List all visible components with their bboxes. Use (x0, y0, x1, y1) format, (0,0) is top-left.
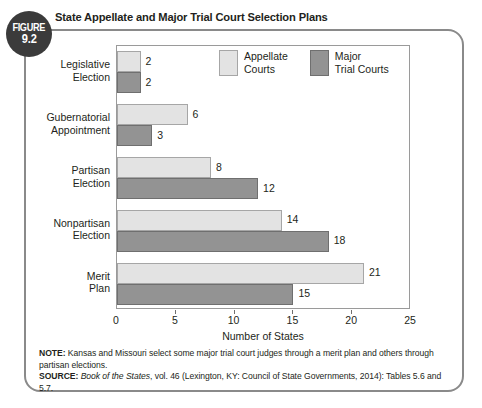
note-line: NOTE: Kansas and Missouri select some ma… (39, 348, 449, 371)
note-text: Kansas and Missouri select some major tr… (39, 348, 434, 370)
figure-title: State Appellate and Major Trial Court Se… (55, 11, 328, 23)
category-label-nonpartisan-election: NonpartisanElection (0, 217, 110, 242)
category-label-gubernatorial-appointment: GubernatorialAppointment (0, 111, 110, 136)
bar-value-label: 21 (369, 267, 381, 278)
x-tick-label: 5 (172, 314, 178, 326)
note-label: NOTE: (39, 348, 65, 358)
x-tick-label: 25 (404, 314, 416, 326)
legend-item-appellate-courts: Appellate Courts (219, 50, 288, 76)
bar-value-label: 6 (193, 109, 199, 120)
dark-swatch (310, 50, 329, 76)
category-label-merit-plan: MeritPlan (0, 270, 110, 295)
source-line: SOURCE: Book of the States, vol. 46 (Lex… (39, 371, 449, 394)
bar-value-label: 2 (146, 56, 152, 67)
legend-item-major-trial-courts: Major Trial Courts (310, 50, 389, 76)
category-label-legislative-election: LegislativeElection (0, 58, 110, 83)
source-label: SOURCE: (39, 371, 78, 381)
bar-value-label: 8 (216, 162, 222, 173)
bar-value-label: 3 (157, 130, 163, 141)
bar-major-trial-courts-merit-plan (117, 284, 293, 305)
figure-badge: FIGURE 9.2 (6, 11, 52, 57)
source-title: Book of the States (81, 371, 150, 381)
bar-value-label: 2 (146, 77, 152, 88)
x-tick-label: 10 (228, 314, 240, 326)
legend-label: Appellate Courts (244, 50, 288, 75)
bar-major-trial-courts-legislative-election (117, 72, 141, 93)
bar-appellate-courts-partisan-election (117, 157, 211, 178)
bar-appellate-courts-merit-plan (117, 263, 364, 284)
legend-label: Major Trial Courts (335, 50, 389, 75)
bar-appellate-courts-legislative-election (117, 51, 141, 72)
bar-value-label: 18 (334, 235, 346, 246)
bar-value-label: 15 (298, 288, 310, 299)
light-swatch (219, 50, 238, 76)
x-tick-label: 0 (113, 314, 119, 326)
plot-inner (117, 46, 409, 308)
bar-major-trial-courts-gubernatorial-appointment (117, 125, 152, 146)
bar-major-trial-courts-partisan-election (117, 178, 258, 199)
chart-legend: Appellate CourtsMajor Trial Courts (219, 50, 389, 76)
x-tick-label: 20 (345, 314, 357, 326)
figure-footnotes: NOTE: Kansas and Missouri select some ma… (39, 348, 449, 394)
bar-value-label: 12 (263, 183, 275, 194)
x-axis-title: Number of States (116, 330, 410, 342)
bar-value-label: 14 (287, 214, 299, 225)
bar-appellate-courts-gubernatorial-appointment (117, 104, 188, 125)
bar-major-trial-courts-nonpartisan-election (117, 231, 329, 252)
category-label-partisan-election: PartisanElection (0, 164, 110, 189)
bar-appellate-courts-nonpartisan-election (117, 210, 282, 231)
plot-panel (116, 45, 410, 309)
figure-root: FIGURE 9.2 State Appellate and Major Tri… (0, 0, 482, 408)
x-tick-label: 15 (287, 314, 299, 326)
figure-badge-number: 9.2 (21, 33, 36, 46)
